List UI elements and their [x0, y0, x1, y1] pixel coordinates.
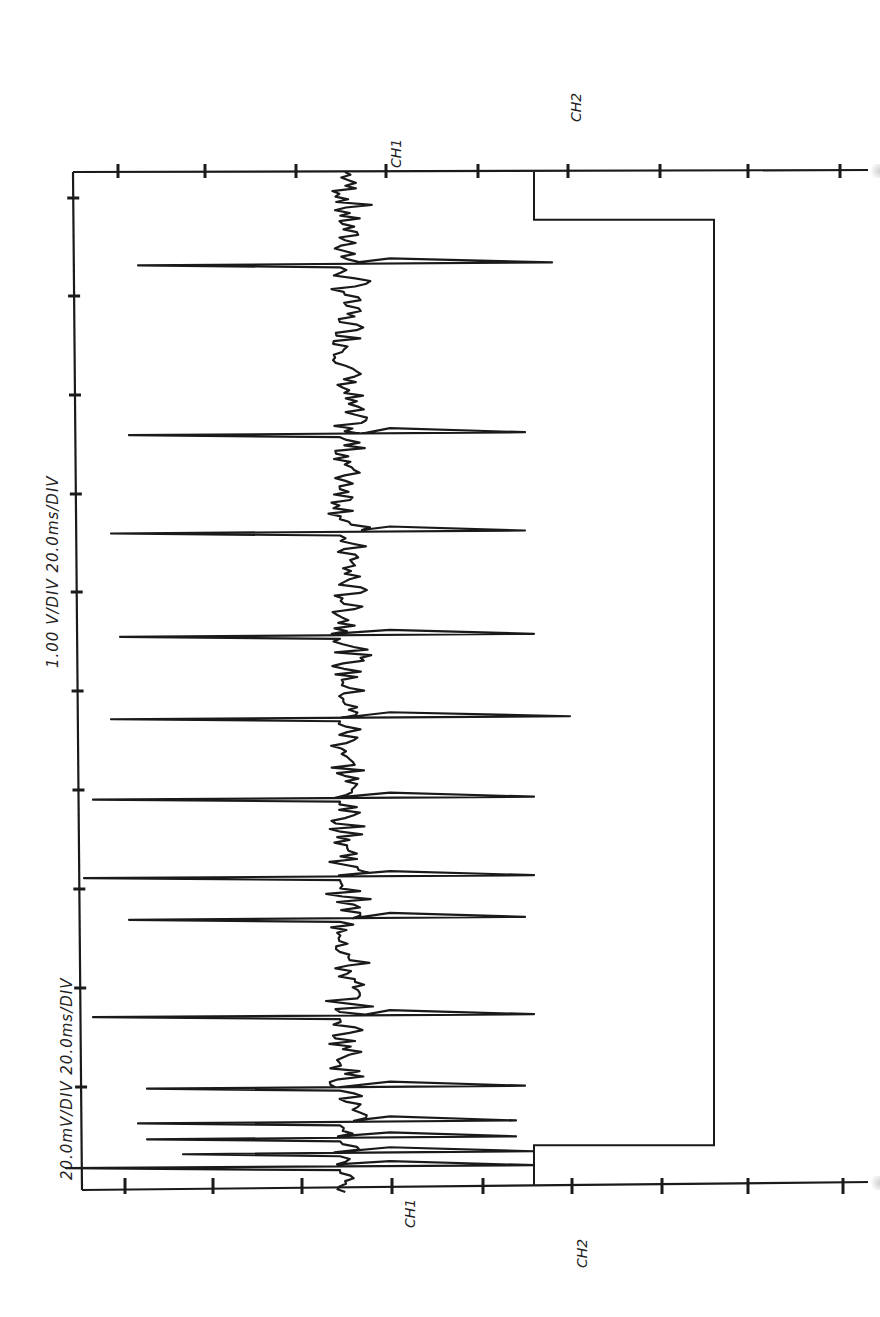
- ch1-bottom-marker: CH1: [402, 1199, 418, 1228]
- ch1-top-marker: CH1: [388, 139, 404, 168]
- ch2-top-marker: CH2: [568, 93, 584, 122]
- ch2-bottom-marker: CH2: [574, 1239, 590, 1268]
- plot-frame: [73, 170, 872, 1190]
- edge-smudge: [868, 164, 880, 178]
- oscilloscope-plot: [0, 0, 880, 1317]
- ch1-trace: [66, 172, 570, 1192]
- edge-smudge: [868, 1176, 880, 1190]
- ch2-trace: [534, 172, 714, 1185]
- ch2-setting-label: 1.00 V/DIV 20.0ms/DIV: [44, 475, 62, 668]
- ch1-setting-label: 20.0mV/DIV 20.0ms/DIV: [58, 978, 76, 1180]
- axis-ticks: [67, 164, 843, 1194]
